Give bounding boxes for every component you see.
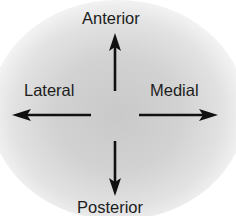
label-medial: Medial (150, 82, 199, 99)
label-lateral: Lateral (24, 82, 74, 99)
arrow-left-icon (12, 109, 91, 121)
directional-diagram: Anterior Lateral Medial Posterior (0, 0, 236, 216)
arrows-layer (0, 0, 236, 216)
arrow-up-icon (109, 33, 121, 91)
arrow-down-icon (109, 141, 121, 196)
arrow-right-icon (139, 109, 218, 121)
label-posterior: Posterior (77, 199, 143, 216)
label-anterior: Anterior (82, 10, 140, 27)
